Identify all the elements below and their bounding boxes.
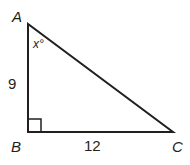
triangle-diagram: A B C x° 9 12 (0, 0, 190, 165)
vertex-label-c: C (172, 139, 183, 154)
vertex-label-b: B (11, 139, 21, 154)
right-angle-marker (28, 119, 41, 132)
side-label-bc: 12 (84, 138, 101, 153)
triangle-shape (28, 24, 173, 132)
vertex-label-a: A (12, 9, 22, 24)
angle-label: x° (33, 38, 44, 50)
side-label-ab: 9 (8, 76, 16, 91)
